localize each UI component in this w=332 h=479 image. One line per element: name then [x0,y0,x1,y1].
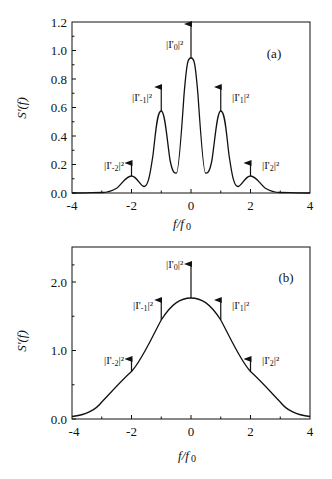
x-tick-labels-b: -4 -2 0 2 4 [69,424,314,439]
y-tick-labels-a: 0.0 0.2 0.4 0.6 0.8 1.0 1.2 [51,15,68,201]
x-axis-title-b: f/f0 [178,448,196,464]
x-axis-title-a: f/f0 [173,216,191,232]
label-I-minus1-b: |I'-1|² [133,299,154,313]
y-axis-ticks-a [72,36,76,193]
y-tick-label: 0.0 [51,186,67,201]
x-tick-label: -4 [69,424,80,439]
label-I-1-a: |I'1|² [232,91,250,105]
x-tick-label: 4 [307,198,314,213]
x-tick-label: 2 [247,198,254,213]
y-tick-label: 0.0 [51,412,67,427]
label-I-0-b: |I'0|² [166,258,184,272]
label-I-1-b: |I'1|² [232,299,250,313]
arrow-labels-b: |I'-2|² |I'-1|² |I'0|² |I'1|² |I'2|² [104,258,280,368]
arrows-b [132,264,251,372]
x-tick-label: -2 [126,198,137,213]
label-I-minus2-b: |I'-2|² [104,354,125,368]
y-tick-label: 2.0 [51,275,67,290]
panel-label-a: (a) [267,46,281,61]
x-tick-label: -2 [126,424,137,439]
label-I-0-a: |I'0|² [166,38,184,52]
panel-a: 0.0 0.2 0.4 0.6 0.8 1.0 1.2 -4 -2 0 2 4 … [14,15,314,233]
x-tick-label: -4 [67,198,78,213]
y-tick-label: 1.0 [51,343,67,358]
y-tick-labels-b: 0.0 1.0 2.0 [51,275,67,427]
x-tick-labels-a: -4 -2 0 2 4 [67,198,314,213]
x-axis-ticks-a [102,189,281,193]
y-tick-label: 1.2 [51,15,67,30]
x-tick-label: 4 [307,424,314,439]
y-axis-title-b: S'(f) [14,330,29,352]
y-tick-label: 0.4 [51,129,68,144]
x-axis-ticks-b [102,415,281,419]
label-I-minus2-a: |I'-2|² [104,159,125,173]
x-tick-label: 0 [188,424,195,439]
figure: 0.0 0.2 0.4 0.6 0.8 1.0 1.2 -4 -2 0 2 4 … [0,0,332,479]
label-I-2-a: |I'2|² [262,159,280,173]
spectrum-curve-a [72,58,310,193]
label-I-2-b: |I'2|² [262,354,280,368]
x-tick-label: 2 [247,424,254,439]
panel-b: 0.0 1.0 2.0 -4 -2 0 2 4 f/f0 S'(f) (b) |… [14,247,314,464]
y-tick-label: 0.6 [51,100,68,115]
y-tick-label: 1.0 [51,43,67,58]
y-axis-ticks-b [72,265,76,419]
panel-label-b: (b) [278,270,293,285]
y-axis-title-a: S'(f) [14,97,29,119]
label-I-minus1-a: |I'-1|² [132,91,153,105]
x-tick-label: 0 [188,198,195,213]
y-tick-label: 0.8 [51,72,67,87]
y-tick-label: 0.2 [51,157,67,172]
